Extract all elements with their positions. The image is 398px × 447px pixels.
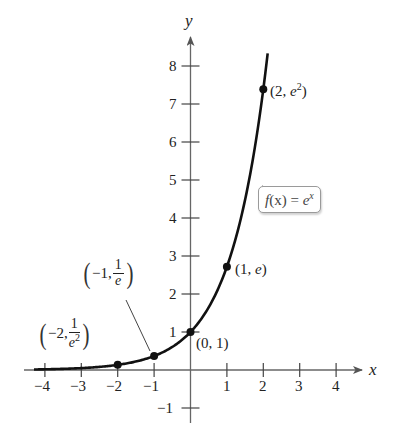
paren: ( <box>40 319 47 349</box>
paren: ) <box>82 319 89 349</box>
text: ) <box>262 261 267 277</box>
fraction: 1e <box>113 258 124 288</box>
y-tick-label: 6 <box>169 135 177 150</box>
y-tick-label: 3 <box>169 249 177 264</box>
denominator: e <box>115 274 121 289</box>
x-tick-label: 1 <box>223 379 231 394</box>
text: 2 <box>75 332 80 343</box>
point-label-2-e2: (2, e2) <box>270 82 307 99</box>
text: = <box>287 192 303 208</box>
data-point <box>187 328 195 336</box>
function-callout: f(x) = ex <box>258 186 321 213</box>
text: (2, <box>270 83 290 99</box>
data-point <box>259 85 267 93</box>
y-tick-label: 5 <box>169 173 177 188</box>
y-tick-label: 1 <box>169 325 177 340</box>
fraction: 1e2 <box>69 317 80 350</box>
x-tick-label: 3 <box>295 379 303 394</box>
text: −1, <box>92 266 112 281</box>
text: e <box>290 83 297 99</box>
x-tick-label: −1 <box>143 379 159 394</box>
numerator: 1 <box>113 258 124 274</box>
y-tick-label: −1 <box>157 401 173 416</box>
x-tick-label: −4 <box>34 379 50 394</box>
leader-line <box>126 300 150 351</box>
numerator: 1 <box>69 317 80 333</box>
paren: ) <box>126 258 133 288</box>
text: x <box>309 190 313 201</box>
y-tick-label: 4 <box>169 211 177 226</box>
point-label-0-1: (0, 1) <box>196 336 229 351</box>
text: (1, <box>235 261 255 277</box>
x-axis-label: x <box>369 361 377 378</box>
paren: ( <box>84 258 91 288</box>
text: −2, <box>48 326 68 341</box>
point-label-1-e: (1, e) <box>235 262 267 277</box>
x-tick-label: 4 <box>332 379 340 394</box>
x-tick-label: 2 <box>259 379 267 394</box>
text: e <box>255 261 262 277</box>
point-label-m2: ( −2, 1e2 ) <box>38 317 91 350</box>
x-tick-label: −3 <box>70 379 86 394</box>
y-tick-label: 8 <box>169 59 177 74</box>
y-tick-label: 2 <box>169 287 177 302</box>
point-label-m1: ( −1, 1e ) <box>82 258 135 288</box>
data-point <box>223 263 231 271</box>
y-tick-label: 7 <box>169 97 177 112</box>
x-tick-label: −2 <box>106 379 122 394</box>
text: ) <box>302 83 307 99</box>
text: (x) <box>269 192 287 208</box>
data-point <box>114 361 122 369</box>
y-axis-label: y <box>185 12 193 29</box>
data-point <box>150 352 158 360</box>
denominator: e2 <box>69 333 80 351</box>
